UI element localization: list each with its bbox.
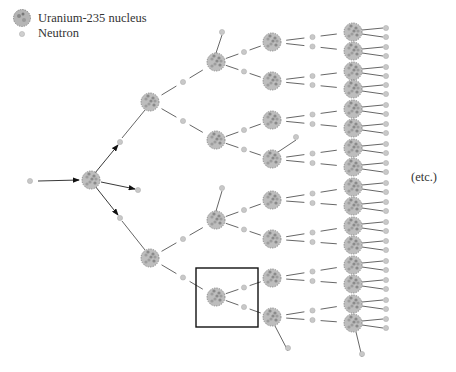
connector-line bbox=[286, 318, 304, 319]
neutron-icon bbox=[180, 275, 185, 280]
neutron-icon bbox=[383, 228, 388, 233]
connector-line bbox=[250, 204, 261, 208]
connector-line bbox=[321, 150, 337, 152]
neutron-icon bbox=[383, 189, 388, 194]
connector-line bbox=[101, 182, 135, 189]
connector-line bbox=[162, 86, 177, 95]
neutron-icon bbox=[383, 258, 388, 263]
connector-line bbox=[321, 268, 337, 271]
connector-line bbox=[362, 34, 383, 37]
connector-line bbox=[321, 47, 337, 49]
legend-item-neutron: Neutron bbox=[12, 26, 79, 41]
neutron-icon bbox=[383, 219, 388, 224]
connector-line bbox=[286, 121, 304, 123]
neutron-icon bbox=[241, 127, 246, 132]
connector-line bbox=[362, 300, 383, 302]
connector-line bbox=[226, 289, 239, 293]
neutron-icon bbox=[241, 227, 246, 232]
chain-reaction-diagram bbox=[0, 0, 456, 372]
connector-line bbox=[321, 86, 337, 88]
connector-line bbox=[286, 234, 304, 237]
neutron-icon bbox=[383, 297, 388, 302]
neutron-icon bbox=[383, 141, 388, 146]
neutron-icon bbox=[383, 73, 388, 78]
connector-line bbox=[362, 267, 383, 270]
connector-line bbox=[286, 240, 304, 241]
connector-line bbox=[250, 282, 261, 286]
connector-line bbox=[362, 144, 383, 146]
connector-line bbox=[321, 307, 337, 310]
connector-line bbox=[162, 265, 177, 274]
neutron-icon bbox=[383, 64, 388, 69]
connector-line bbox=[286, 116, 304, 118]
connector-line bbox=[362, 202, 383, 204]
connector-line bbox=[190, 125, 203, 133]
connector-line bbox=[278, 140, 296, 152]
connector-line bbox=[190, 228, 203, 236]
connector-line bbox=[362, 163, 383, 165]
connector-line bbox=[362, 280, 383, 282]
connector-line bbox=[226, 212, 239, 217]
connector-line bbox=[362, 261, 383, 263]
connector-line bbox=[38, 180, 79, 181]
connector-line bbox=[362, 306, 383, 309]
neutron-icon bbox=[180, 79, 185, 84]
neutron-icon bbox=[310, 73, 315, 78]
neutron-icon bbox=[383, 44, 388, 49]
connector-line bbox=[95, 186, 118, 215]
connector-line bbox=[321, 164, 337, 166]
connector-line bbox=[362, 28, 383, 30]
neutron-icon bbox=[310, 191, 315, 196]
connector-line bbox=[286, 312, 304, 315]
connector-line bbox=[362, 73, 383, 76]
neutron-icon bbox=[383, 150, 388, 155]
neutron-icon bbox=[383, 306, 388, 311]
connector-line bbox=[362, 85, 383, 87]
connector-line bbox=[362, 208, 383, 211]
connector-line bbox=[362, 183, 383, 185]
connector-line bbox=[122, 221, 145, 250]
connector-line bbox=[362, 169, 383, 172]
legend-item-nucleus: Uranium-235 nucleus bbox=[12, 8, 147, 28]
neutron-icon bbox=[383, 91, 388, 96]
neutron-icon bbox=[310, 269, 315, 274]
connector-line bbox=[362, 286, 383, 289]
neutron-icon bbox=[219, 185, 224, 190]
connector-line bbox=[321, 73, 337, 75]
connector-line bbox=[95, 145, 118, 173]
neutron-icon bbox=[383, 180, 388, 185]
connector-line bbox=[286, 160, 304, 162]
neutron-icon bbox=[241, 285, 246, 290]
neutron-icon bbox=[310, 112, 315, 117]
neutron-icon bbox=[12, 29, 32, 39]
connector-line bbox=[321, 243, 337, 244]
neutron-icon bbox=[383, 238, 388, 243]
connector-line bbox=[286, 155, 304, 157]
connector-line bbox=[250, 73, 261, 77]
neutron-icon bbox=[383, 277, 388, 282]
neutron-icon bbox=[310, 308, 315, 313]
neutron-icon bbox=[135, 187, 140, 192]
connector-line bbox=[321, 229, 337, 232]
connector-line bbox=[250, 151, 261, 155]
neutron-icon bbox=[383, 325, 388, 330]
connector-line bbox=[362, 325, 383, 328]
connector-line bbox=[122, 110, 145, 138]
neutron-icon bbox=[285, 345, 290, 350]
connector-line bbox=[362, 130, 383, 133]
connector-line bbox=[250, 309, 261, 313]
connector-line bbox=[216, 191, 222, 211]
neutron-icon bbox=[310, 317, 315, 322]
connector-line bbox=[362, 67, 383, 69]
neutron-icon bbox=[310, 278, 315, 283]
connector-line bbox=[362, 91, 383, 94]
neutron-icon bbox=[310, 82, 315, 87]
connector-line bbox=[321, 321, 337, 322]
connector-line bbox=[362, 150, 383, 153]
connector-line bbox=[321, 282, 337, 283]
neutron-icon bbox=[293, 134, 298, 139]
connector-line bbox=[286, 201, 304, 202]
neutron-icon bbox=[180, 236, 185, 241]
neutron-icon bbox=[27, 178, 32, 183]
connector-line bbox=[216, 35, 222, 53]
